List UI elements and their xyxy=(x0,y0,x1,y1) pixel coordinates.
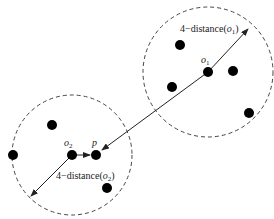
point xyxy=(175,40,185,50)
point-p xyxy=(91,150,101,160)
p-label: p xyxy=(91,137,97,148)
point xyxy=(8,150,18,160)
point xyxy=(228,66,238,76)
point xyxy=(47,120,57,130)
o1-label: o1 xyxy=(201,54,210,67)
lof-diagram: 4−distance(o1) o1 o2 p 4−distance(o2) xyxy=(0,0,274,219)
point-o2 xyxy=(67,150,77,160)
distance-o2-label: 4−distance(o2) xyxy=(56,170,115,183)
point-o1 xyxy=(203,67,213,77)
distance-o1-label: 4−distance(o1) xyxy=(180,23,239,36)
o1-to-p-arrow xyxy=(102,72,208,150)
o1-radius-arrow xyxy=(208,29,248,72)
point xyxy=(244,108,254,118)
o2-label: o2 xyxy=(64,137,73,150)
point xyxy=(102,183,112,193)
point xyxy=(167,82,177,92)
